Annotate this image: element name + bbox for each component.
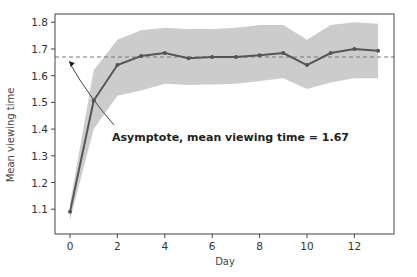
y-axis-ticks: 1.11.21.31.41.51.61.71.8	[31, 16, 55, 215]
data-point	[68, 210, 72, 214]
data-point	[258, 53, 262, 57]
data-point	[281, 51, 285, 55]
data-point	[234, 55, 238, 59]
x-tick-label: 12	[348, 240, 361, 252]
x-tick-label: 2	[114, 240, 121, 252]
x-axis-label: Day	[215, 256, 235, 267]
data-point	[376, 49, 380, 53]
y-tick-label: 1.6	[31, 70, 48, 82]
y-tick-label: 1.1	[31, 203, 48, 215]
plot-area	[55, 14, 394, 234]
x-tick-label: 8	[256, 240, 263, 252]
y-tick-label: 1.3	[31, 150, 48, 162]
line-chart: 024681012 1.11.21.31.41.51.61.71.8 Day M…	[0, 0, 417, 277]
data-point	[139, 54, 143, 58]
x-tick-label: 6	[209, 240, 216, 252]
y-axis-label: Mean viewing time	[5, 88, 16, 183]
y-tick-label: 1.5	[31, 96, 48, 108]
y-tick-label: 1.4	[31, 123, 48, 135]
x-tick-label: 4	[161, 240, 168, 252]
data-point	[352, 47, 356, 51]
x-tick-label: 10	[300, 240, 313, 252]
asymptote-annotation: Asymptote, mean viewing time = 1.67	[112, 131, 349, 144]
y-tick-label: 1.8	[31, 16, 48, 28]
data-point	[187, 56, 191, 60]
data-point	[210, 55, 214, 59]
y-tick-label: 1.2	[31, 177, 48, 189]
x-tick-label: 0	[67, 240, 74, 252]
data-point	[163, 51, 167, 55]
x-axis-ticks: 024681012	[67, 234, 361, 252]
data-point	[115, 63, 119, 67]
y-tick-label: 1.7	[31, 43, 48, 55]
data-point	[329, 51, 333, 55]
data-point	[305, 63, 309, 67]
